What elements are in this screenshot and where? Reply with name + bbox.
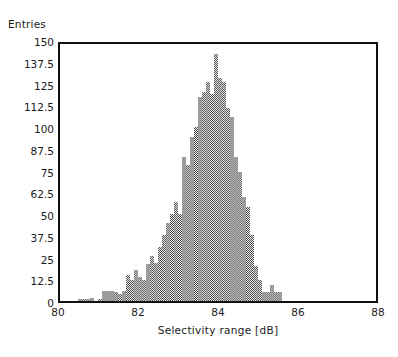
histogram-bar	[254, 266, 257, 301]
histogram-bar	[114, 292, 117, 301]
histogram-bar	[186, 165, 189, 301]
x-tick-label: 88	[358, 307, 398, 318]
histogram-bar	[146, 264, 149, 301]
y-tick-label: 150	[0, 37, 54, 47]
histogram-bar	[206, 82, 209, 301]
y-tick-label: 100	[0, 124, 54, 134]
histogram-bar	[258, 280, 261, 301]
y-tick-label: 37.5	[0, 233, 54, 243]
histogram-bar	[190, 137, 193, 301]
histogram-bar	[126, 275, 129, 301]
histogram-bar	[226, 108, 229, 301]
histogram-bar	[270, 285, 273, 301]
histogram-bar	[78, 299, 81, 301]
histogram-bar	[222, 82, 225, 301]
x-axis-title: Selectivity range [dB]	[58, 324, 378, 336]
histogram-bar	[194, 127, 197, 301]
histogram-bar	[134, 270, 137, 301]
y-tick-label: 112.5	[0, 102, 54, 112]
y-tick-label: 62.5	[0, 189, 54, 199]
histogram-bar	[158, 247, 161, 301]
histogram-bar	[138, 277, 141, 301]
histogram-bar	[210, 94, 213, 301]
histogram-bar	[230, 117, 233, 301]
y-tick-label: 50	[0, 211, 54, 221]
histogram-bar	[262, 292, 265, 301]
histogram-bar	[274, 292, 277, 301]
y-tick-label: 75	[0, 168, 54, 178]
histogram-bar	[82, 299, 85, 301]
histogram-figure: Entries 012.52537.55062.57587.5100112.51…	[0, 0, 398, 357]
plot-area	[58, 42, 378, 303]
histogram-bar	[166, 223, 169, 301]
histogram-bar	[122, 291, 125, 301]
histogram-bar	[242, 197, 245, 301]
histogram-bar	[162, 235, 165, 301]
histogram-bar	[130, 280, 133, 301]
y-tick-label: 87.5	[0, 146, 54, 156]
x-tick-label: 86	[278, 307, 318, 318]
y-axis-title: Entries	[8, 18, 46, 30]
histogram-bar	[238, 172, 241, 301]
histogram-bar	[110, 291, 113, 301]
histogram-bar	[154, 263, 157, 301]
histogram-bar	[250, 235, 253, 301]
histogram-bar	[266, 292, 269, 301]
histogram-bars	[60, 44, 376, 301]
histogram-bar	[174, 202, 177, 301]
histogram-bar	[198, 97, 201, 301]
histogram-bar	[142, 280, 145, 301]
histogram-bar	[98, 299, 101, 301]
histogram-bar	[106, 291, 109, 301]
histogram-bar	[178, 214, 181, 301]
histogram-bar	[118, 294, 121, 301]
histogram-bar	[214, 54, 217, 301]
histogram-bar	[102, 291, 105, 301]
y-tick-label: 12.5	[0, 276, 54, 286]
histogram-bar	[86, 299, 89, 301]
histogram-bar	[150, 256, 153, 301]
y-tick-label: 137.5	[0, 59, 54, 69]
y-tick-label: 125	[0, 81, 54, 91]
histogram-bar	[202, 92, 205, 301]
histogram-bar	[218, 78, 221, 301]
histogram-bar	[234, 157, 237, 301]
histogram-bar	[182, 157, 185, 301]
histogram-bar	[278, 292, 281, 301]
histogram-bar	[170, 214, 173, 301]
histogram-bar	[90, 298, 93, 301]
x-tick-label: 82	[118, 307, 158, 318]
x-tick-label: 80	[38, 307, 78, 318]
y-tick-label: 25	[0, 255, 54, 265]
x-tick-label: 84	[198, 307, 238, 318]
histogram-bar	[246, 207, 249, 301]
